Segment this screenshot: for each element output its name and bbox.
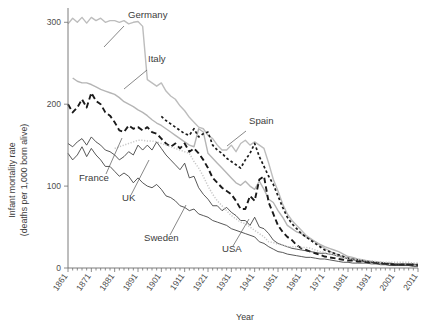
annotation-leader-sweden bbox=[170, 205, 186, 235]
x-tick-label: 1921 bbox=[191, 271, 210, 292]
x-tick-label: 1881 bbox=[97, 271, 116, 292]
annotation-leader-spain bbox=[227, 131, 246, 146]
x-axis-label: Year bbox=[236, 312, 254, 322]
annotation-leader-germany bbox=[104, 26, 124, 47]
series-annotation-germany: Germany bbox=[128, 9, 168, 20]
annotation-layer: GermanyItalySpainFranceUKSwedenUSA bbox=[79, 9, 274, 254]
x-tick-label: 1871 bbox=[74, 271, 93, 292]
annotation-leader-france bbox=[106, 138, 122, 174]
series-line-italy bbox=[73, 78, 418, 266]
x-tick-label: 1981 bbox=[331, 271, 350, 292]
x-tick-label: 2001 bbox=[377, 271, 396, 292]
x-tick-label: 2011 bbox=[401, 271, 420, 292]
x-tick-label: 1941 bbox=[237, 271, 256, 292]
annotation-leader-italy bbox=[124, 70, 147, 89]
annotation-leader-uk bbox=[131, 160, 149, 195]
x-tick-label: 1861 bbox=[51, 271, 70, 292]
y-tick-label: 100 bbox=[47, 181, 61, 191]
y-axis-label-line2: (deaths per 1,000 born alive) bbox=[19, 124, 29, 237]
series-annotation-spain: Spain bbox=[249, 115, 274, 126]
x-tick-label: 1951 bbox=[261, 271, 280, 292]
y-tick-label: 200 bbox=[47, 99, 61, 109]
x-tick-label: 1901 bbox=[144, 271, 163, 292]
chart-figure: 0100200300186118711881189119011911192119… bbox=[0, 0, 433, 325]
annotation-leader-usa bbox=[233, 219, 249, 246]
y-axis-label-line1: Infant mortality rate bbox=[7, 142, 17, 217]
series-annotation-usa: USA bbox=[222, 243, 242, 254]
series-line-uk bbox=[68, 137, 418, 265]
x-tick-label: 1961 bbox=[284, 271, 303, 292]
series-annotation-france: France bbox=[79, 172, 109, 183]
series-annotation-sweden: Sweden bbox=[144, 232, 179, 243]
y-tick-label: 300 bbox=[47, 17, 61, 27]
x-tick-label: 1971 bbox=[307, 271, 326, 292]
x-tick-label: 1891 bbox=[121, 271, 140, 292]
x-tick-label: 1991 bbox=[354, 271, 373, 292]
series-line-spain bbox=[161, 116, 418, 264]
series-annotation-italy: Italy bbox=[148, 53, 166, 64]
series-annotation-uk: UK bbox=[122, 192, 136, 203]
series-line-france bbox=[68, 93, 418, 265]
x-tick-label: 1931 bbox=[214, 271, 233, 292]
infant-mortality-line-chart: 0100200300186118711881189119011911192119… bbox=[0, 0, 433, 325]
x-tick-label: 1911 bbox=[168, 271, 187, 292]
